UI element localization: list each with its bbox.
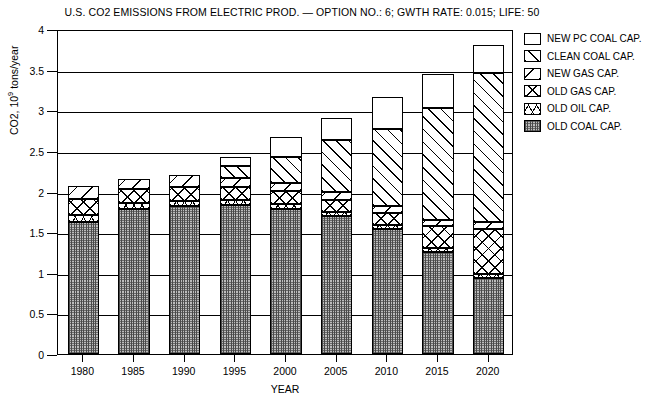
bar-segment: [118, 203, 149, 209]
bar-segment: [372, 213, 403, 224]
bar-segment: [473, 45, 504, 73]
bar-segment: [422, 108, 453, 220]
bar-segment: [118, 209, 149, 354]
x-axis-tick-label: 1980: [57, 365, 107, 377]
bar-2015: [422, 29, 453, 354]
bar-segment: [169, 201, 200, 206]
bar-segment: [270, 157, 301, 183]
chart-title: U.S. CO2 EMISSIONS FROM ELECTRIC PROD. —…: [0, 6, 604, 18]
legend-swatch-icon: [524, 33, 541, 45]
y-axis-tick: [47, 355, 57, 356]
bar-segment: [169, 187, 200, 201]
y-axis-tick: [47, 274, 57, 275]
y-axis-tick: [47, 314, 57, 315]
y-axis-tick-label: 2.5: [8, 147, 44, 158]
legend-label: OLD GAS CAP.: [547, 86, 616, 97]
legend-label: NEW PC COAL CAP.: [547, 33, 641, 44]
bar-segment: [422, 252, 453, 354]
bar-segment: [422, 226, 453, 247]
bar-segment: [118, 189, 149, 203]
legend-item: NEW PC COAL CAP.: [524, 30, 641, 48]
legend-swatch-icon: [524, 50, 541, 62]
x-axis-tick-label: 1985: [108, 365, 158, 377]
y-axis-tick: [47, 111, 57, 112]
legend-label: CLEAN COAL CAP.: [547, 51, 635, 62]
bar-segment: [473, 229, 504, 274]
x-axis-tick: [184, 355, 185, 362]
bar-segment: [270, 209, 301, 354]
x-axis-tick-label: 2015: [412, 365, 462, 377]
bar-segment: [270, 204, 301, 209]
y-axis-tick: [47, 71, 57, 72]
bar-segment: [220, 157, 251, 165]
x-axis-tick-label: 2010: [361, 365, 411, 377]
bar-segment: [321, 192, 352, 200]
bar-segment: [68, 222, 99, 354]
legend-item: OLD COAL CAP.: [524, 118, 641, 136]
y-axis-tick-label: 0.5: [8, 309, 44, 320]
bar-segment: [169, 175, 200, 187]
y-axis-label: CO2, 109 tons/year: [6, 46, 20, 135]
y-axis-tick-label: 3: [8, 106, 44, 117]
bar-segment: [422, 74, 453, 108]
bar-segment: [270, 191, 301, 204]
bar-segment: [372, 129, 403, 206]
x-axis-tick-label: 2020: [463, 365, 513, 377]
y-axis-tick-label: 4: [8, 25, 44, 36]
legend-item: NEW GAS CAP.: [524, 65, 641, 83]
legend-label: OLD COAL CAP.: [547, 121, 622, 132]
bar-segment: [422, 220, 453, 227]
legend: NEW PC COAL CAP.CLEAN COAL CAP.NEW GAS C…: [524, 30, 641, 135]
legend-swatch-icon: [524, 68, 541, 80]
x-axis-tick: [82, 355, 83, 362]
bar-segment: [473, 274, 504, 278]
bar-segment: [473, 222, 504, 229]
bar-2020: [473, 29, 504, 354]
x-axis-tick: [386, 355, 387, 362]
bar-1990: [169, 29, 200, 354]
legend-swatch-icon: [524, 103, 541, 115]
bar-segment: [270, 137, 301, 157]
bar-2005: [321, 29, 352, 354]
bar-segment: [473, 73, 504, 223]
bar-segment: [321, 118, 352, 140]
x-axis-tick: [285, 355, 286, 362]
x-axis-tick-label: 2005: [311, 365, 361, 377]
bar-2000: [270, 29, 301, 354]
x-axis-tick-label: 1990: [159, 365, 209, 377]
y-axis-tick-label: 1: [8, 269, 44, 280]
bar-segment: [372, 229, 403, 354]
y-axis-tick: [47, 193, 57, 194]
bar-segment: [372, 97, 403, 129]
bar-segment: [220, 200, 251, 205]
bar-segment: [68, 186, 99, 199]
bar-segment: [321, 200, 352, 211]
legend-item: CLEAN COAL CAP.: [524, 48, 641, 66]
bar-1995: [220, 29, 251, 354]
y-axis-tick-label: 0: [8, 350, 44, 361]
bar-segment: [118, 179, 149, 189]
legend-item: OLD OIL CAP.: [524, 100, 641, 118]
plot-area: [57, 30, 513, 355]
x-axis-tick-label: 2000: [260, 365, 310, 377]
y-axis-tick: [47, 152, 57, 153]
x-axis-tick: [488, 355, 489, 362]
bar-2010: [372, 29, 403, 354]
x-axis-tick: [437, 355, 438, 362]
legend-swatch-icon: [524, 85, 541, 97]
bar-1985: [118, 29, 149, 354]
legend-label: NEW GAS CAP.: [547, 68, 619, 79]
x-axis-tick: [133, 355, 134, 362]
bar-segment: [220, 187, 251, 200]
bar-segment: [270, 183, 301, 191]
bar-segment: [68, 199, 99, 215]
bar-segment: [321, 140, 352, 192]
x-axis-label: YEAR: [57, 383, 513, 395]
y-axis-tick-label: 3.5: [8, 66, 44, 77]
bar-segment: [68, 215, 99, 222]
bar-1980: [68, 29, 99, 354]
bar-segment: [220, 166, 251, 178]
bar-segment: [372, 206, 403, 213]
y-axis-tick-label: 1.5: [8, 228, 44, 239]
x-axis-tick: [234, 355, 235, 362]
